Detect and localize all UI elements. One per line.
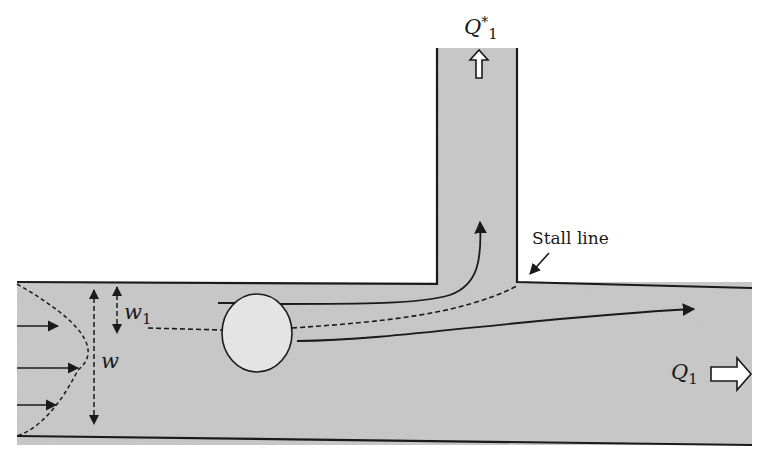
branch-flow-label: Q*1	[464, 14, 498, 43]
particle-circle	[222, 294, 292, 372]
t-junction-diagram	[0, 0, 772, 462]
main-flow-label: Q1	[671, 360, 698, 388]
sub-width-label: w1	[124, 300, 152, 328]
diagram-canvas: Q*1 Q1 w w1 Stall line	[0, 0, 772, 462]
stall-line-label: Stall line	[532, 228, 609, 248]
top-wall-left	[17, 48, 437, 284]
fluid-region	[17, 48, 752, 445]
top-wall-right	[517, 48, 752, 288]
stall-line-pointer	[530, 253, 549, 274]
channel-width-label: w	[101, 349, 119, 373]
